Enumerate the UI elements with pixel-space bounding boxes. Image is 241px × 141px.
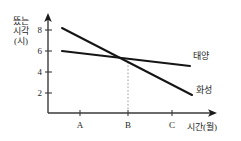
y-axis-title-line-3: (시) xyxy=(14,36,28,46)
y-axis-title-line-1: 뜼는 xyxy=(13,16,29,26)
y-tick-label-6: 6 xyxy=(30,46,42,56)
y-axis-title-line-2: 시각 xyxy=(13,26,29,36)
series-label-mars: 화성 xyxy=(196,83,212,96)
series-line-mars xyxy=(62,28,192,95)
x-tick-label-b: B xyxy=(120,120,136,130)
y-tick-label-4: 4 xyxy=(30,67,42,77)
x-axis-title: 시간(월) xyxy=(187,120,217,133)
y-tick-label-8: 8 xyxy=(30,25,42,35)
x-tick-label-a: A xyxy=(72,120,88,130)
chart-figure: 뜼는 시각 (시) 8 6 4 2 A B C 시간(월) 태양 화성 xyxy=(0,0,241,141)
series-line-sun xyxy=(62,51,190,66)
x-tick-label-c: C xyxy=(164,120,180,130)
y-tick-label-2: 2 xyxy=(30,88,42,98)
series-label-sun: 태양 xyxy=(193,49,209,62)
